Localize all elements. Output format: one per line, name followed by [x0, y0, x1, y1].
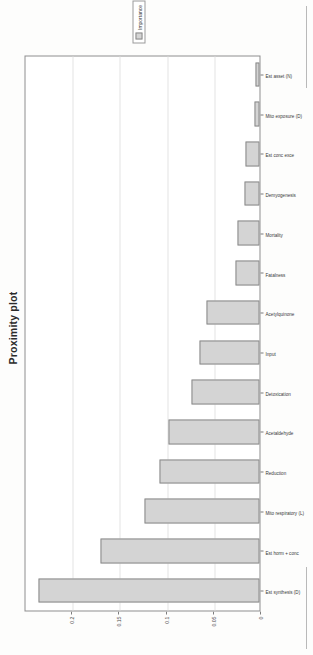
x-tick-mark	[260, 511, 263, 512]
plot-area	[24, 55, 260, 611]
x-tick-mark	[260, 550, 263, 551]
x-tick-mark	[260, 431, 263, 432]
x-axis-category-label: Demyogenesis	[265, 192, 295, 197]
x-axis-category-label: Fatalness	[265, 272, 285, 277]
x-axis-category-label: Acetylquinone	[265, 311, 294, 316]
x-tick-mark	[260, 471, 263, 472]
legend: Importance	[132, 0, 145, 43]
bar	[237, 220, 259, 245]
legend-label-importance: Importance	[136, 4, 142, 29]
y-tick-label: 0.15	[115, 616, 121, 626]
scanned-page: Proximity plot 00.050.10.150.2 Est synth…	[0, 0, 313, 655]
page-title: Proximity plot	[6, 0, 18, 655]
x-axis-category-label: Input	[265, 351, 275, 356]
x-tick-mark	[260, 193, 263, 194]
x-axis-category-label: Detoxication	[265, 391, 290, 396]
x-tick-mark	[260, 392, 263, 393]
rotated-figure-wrapper: Proximity plot 00.050.10.150.2 Est synth…	[0, 0, 313, 655]
y-axis: 00.050.10.150.2	[24, 611, 260, 655]
x-axis: Est synthesis (D)Est horm + concMito res…	[260, 55, 312, 611]
y-tick-label: 0.2	[68, 616, 74, 623]
x-tick-mark	[260, 272, 263, 273]
x-tick-mark	[260, 114, 263, 115]
y-tick-label: 0.05	[210, 616, 216, 626]
legend-swatch-importance	[135, 32, 142, 39]
x-axis-category-label: Mito respiratory (L)	[265, 510, 304, 515]
bar	[144, 498, 259, 523]
x-tick-mark	[260, 352, 263, 353]
bar-series	[25, 56, 259, 610]
x-tick-mark	[260, 74, 263, 75]
x-axis-category-label: Mito exposure (D)	[265, 113, 302, 118]
bar	[38, 578, 259, 603]
bar	[159, 459, 259, 484]
bar	[206, 300, 259, 325]
y-tick-label: 0	[257, 616, 263, 619]
bar	[255, 62, 259, 87]
x-axis-category-label: Est conc exce	[265, 153, 294, 158]
bar	[235, 260, 259, 285]
bar	[254, 101, 259, 126]
x-tick-mark	[260, 312, 263, 313]
x-tick-mark	[260, 153, 263, 154]
bar	[244, 181, 259, 206]
x-axis-category-label: Est synthesis (D)	[265, 589, 300, 594]
bar	[191, 379, 259, 404]
x-axis-category-label: Reduction	[265, 470, 286, 475]
x-axis-category-label: Mortality	[265, 232, 282, 237]
bar	[245, 141, 259, 166]
x-axis-category-label: Acetaldehyde	[265, 431, 293, 436]
bar	[100, 538, 259, 563]
x-tick-mark	[260, 233, 263, 234]
x-tick-mark	[260, 590, 263, 591]
x-axis-category-label: Est asset (N)	[265, 73, 292, 78]
bar	[168, 419, 259, 444]
proximity-plot-figure: Proximity plot 00.050.10.150.2 Est synth…	[0, 0, 313, 655]
bar	[199, 340, 259, 365]
x-axis-category-label: Est horm + conc	[265, 550, 298, 555]
y-tick-label: 0.1	[163, 616, 169, 623]
